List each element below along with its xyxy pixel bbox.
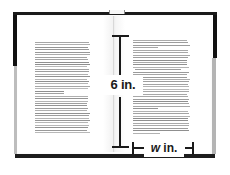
text-line <box>35 66 87 67</box>
text-line <box>133 42 188 43</box>
text-line <box>133 123 189 124</box>
width-variable: w <box>151 141 160 155</box>
text-line <box>35 42 89 43</box>
dimension-tick-bottom <box>112 146 129 148</box>
text-line <box>35 49 89 50</box>
text-line <box>133 55 190 56</box>
text-line <box>35 88 88 89</box>
text-line <box>133 120 188 121</box>
text-line <box>35 101 88 102</box>
text-line <box>35 127 88 128</box>
text-line <box>35 120 90 121</box>
text-line <box>35 59 88 60</box>
text-line <box>133 52 188 53</box>
text-line <box>133 72 189 73</box>
cover-edge-right <box>213 12 217 58</box>
text-line <box>35 130 87 131</box>
text-line <box>35 86 90 87</box>
page-edge-left <box>14 66 17 154</box>
text-line <box>133 67 189 68</box>
text-line <box>35 79 87 80</box>
text-line <box>35 108 88 109</box>
text-line <box>35 132 90 133</box>
text-line <box>35 98 88 99</box>
text-line <box>35 74 88 75</box>
text-line <box>35 76 90 77</box>
width-dimension-label: w in. <box>144 139 184 157</box>
page-edge-right <box>212 58 216 154</box>
text-line <box>133 116 190 117</box>
text-line <box>35 62 89 63</box>
text-line <box>133 50 188 51</box>
text-line <box>35 57 87 58</box>
text-line <box>133 60 187 61</box>
text-line <box>133 103 189 104</box>
text-line <box>133 57 188 58</box>
text-line <box>35 103 87 104</box>
text-line <box>35 64 90 65</box>
text-line <box>35 96 88 97</box>
text-line <box>133 96 188 97</box>
spine-notch <box>109 10 125 14</box>
height-dimension-line: 6 in. <box>105 35 137 148</box>
text-line <box>35 91 64 92</box>
text-line <box>133 133 160 134</box>
text-line <box>133 128 188 129</box>
text-line <box>133 111 188 112</box>
text-line <box>133 62 187 63</box>
figure-canvas: 6 in. w in. <box>0 0 230 175</box>
text-line <box>133 130 189 131</box>
text-line <box>135 69 181 70</box>
text-line <box>133 118 188 119</box>
text-line <box>35 83 88 84</box>
text-line <box>35 93 64 94</box>
text-line <box>133 40 187 41</box>
text-line <box>35 110 87 111</box>
text-line <box>35 113 90 114</box>
text-line <box>35 71 89 72</box>
text-line <box>133 45 190 46</box>
text-line <box>35 125 89 126</box>
width-unit: in. <box>163 141 177 155</box>
text-line <box>35 105 87 106</box>
text-line <box>35 122 88 123</box>
text-line <box>35 115 89 116</box>
text-line <box>35 118 89 119</box>
text-line <box>133 99 189 100</box>
dimension-stem-lower <box>119 97 121 147</box>
cover-edge-left <box>13 12 17 66</box>
text-line <box>35 54 90 55</box>
text-line <box>133 64 187 65</box>
dimension-stem-upper <box>119 36 121 77</box>
dimension-cap-right <box>192 142 194 155</box>
text-line <box>35 52 90 53</box>
text-line <box>133 125 189 126</box>
height-dimension-label: 6 in. <box>103 75 143 95</box>
left-page-text-block <box>35 42 91 134</box>
text-line <box>133 106 190 107</box>
text-line <box>35 47 88 48</box>
text-line <box>133 101 188 102</box>
text-line <box>35 81 89 82</box>
width-dimension-line: w in. <box>132 141 194 159</box>
text-line <box>35 69 89 70</box>
text-line <box>35 44 90 45</box>
text-line <box>133 113 189 114</box>
